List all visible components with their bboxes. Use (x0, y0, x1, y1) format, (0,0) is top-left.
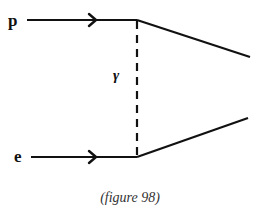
electron-line (31, 151, 137, 163)
electron-label: e (14, 147, 22, 166)
proton-outgoing-line (137, 20, 250, 57)
feynman-diagram: p e γ (figure 98) (0, 0, 260, 216)
proton-line (27, 14, 137, 26)
figure-caption: (figure 98) (100, 190, 160, 206)
photon-label: γ (113, 67, 120, 83)
proton-label: p (8, 11, 17, 30)
electron-outgoing-line (137, 118, 248, 157)
